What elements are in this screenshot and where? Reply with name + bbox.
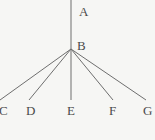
edge-b-f — [71, 49, 113, 100]
tree-diagram-figure: A B C D E F G — [0, 0, 155, 140]
node-label-g: G — [143, 104, 152, 117]
node-label-c: C — [0, 104, 8, 117]
edge-b-g — [71, 49, 146, 100]
tree-edges-svg — [0, 0, 155, 140]
node-label-a: A — [79, 5, 88, 18]
node-label-f: F — [109, 104, 116, 117]
node-label-b: B — [77, 39, 86, 52]
node-label-d: D — [26, 104, 35, 117]
node-label-e: E — [67, 104, 75, 117]
